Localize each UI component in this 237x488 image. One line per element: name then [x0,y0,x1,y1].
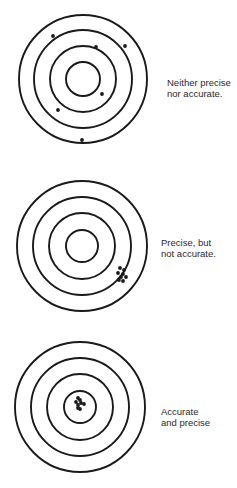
shot-mark [118,266,122,270]
target-precise-not-accurate [17,181,147,311]
shot-mark [122,268,126,272]
target-ring-3 [50,46,116,112]
caption-line: Neither precise [167,78,231,89]
shot-mark [78,407,82,411]
shot-mark [94,45,98,49]
shot-mark [117,278,121,282]
target-ring-1 [15,342,145,472]
caption-line: Accurate [161,407,210,418]
shot-mark [121,279,125,283]
shot-mark [82,402,86,406]
shot-mark [100,92,104,96]
target-ring-3 [47,374,113,440]
shot-mark [123,44,127,48]
target-ring-2 [34,30,132,128]
target-neither-precise-nor-accurate [19,15,147,143]
shot-mark [80,138,84,142]
shot-mark [51,34,55,38]
target-ring-4 [66,62,100,96]
caption-accurate-and-precise: Accurate and precise [161,407,210,428]
target-ring-1 [17,181,147,311]
target-ring-2 [33,197,131,295]
target-ring-2 [31,358,129,456]
caption-neither-precise-nor-accurate: Neither precise nor accurate. [167,78,231,99]
target-ring-4 [64,391,96,423]
target-ring-3 [49,213,115,279]
caption-precise-not-accurate: Precise, but not accurate. [161,238,216,259]
caption-line: and precise [161,418,210,429]
shot-mark [116,271,120,275]
caption-line: Precise, but [161,238,216,249]
caption-line: nor accurate. [167,89,231,100]
caption-line: not accurate. [161,249,216,260]
shot-mark [56,108,60,112]
shot-mark [124,275,128,279]
target-accurate-and-precise [15,342,145,472]
target-ring-1 [19,15,147,143]
target-ring-4 [66,230,98,262]
